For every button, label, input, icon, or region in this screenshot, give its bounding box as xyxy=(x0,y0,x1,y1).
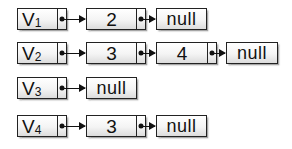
list-node: 2 xyxy=(86,8,146,30)
node-value: 2 xyxy=(87,9,136,29)
arrow-icon xyxy=(142,53,155,55)
null-label: null xyxy=(157,9,206,29)
head-node-v4: V4 xyxy=(17,115,67,137)
node-value: 3 xyxy=(87,43,136,63)
list-node: 4 xyxy=(156,42,217,64)
arrow-icon xyxy=(63,19,85,21)
arrow-icon xyxy=(213,53,225,55)
list-node: 3 xyxy=(86,115,146,137)
head-label: V3 xyxy=(18,78,57,98)
null-label: null xyxy=(157,116,206,136)
arrow-icon xyxy=(142,126,155,128)
head-label: V4 xyxy=(18,116,57,136)
null-label: null xyxy=(87,78,136,98)
head-label: V1 xyxy=(18,9,57,29)
arrow-icon xyxy=(63,126,85,128)
head-label: V2 xyxy=(18,43,57,63)
node-value: 4 xyxy=(157,43,207,63)
arrow-icon xyxy=(63,53,85,55)
head-node-v1: V1 xyxy=(17,8,67,30)
head-node-v2: V2 xyxy=(17,42,67,64)
null-node: null xyxy=(226,42,278,64)
list-node: 3 xyxy=(86,42,146,64)
null-node: null xyxy=(156,8,207,30)
null-node: null xyxy=(86,77,137,99)
arrow-icon xyxy=(63,88,85,90)
null-label: null xyxy=(227,43,277,63)
head-node-v3: V3 xyxy=(17,77,67,99)
arrow-icon xyxy=(142,19,155,21)
node-value: 3 xyxy=(87,116,136,136)
null-node: null xyxy=(156,115,207,137)
